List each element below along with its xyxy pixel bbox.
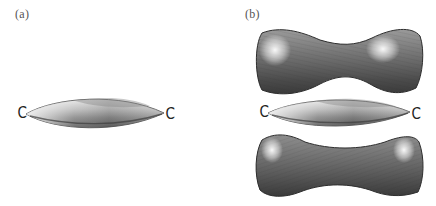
- panel-b-muscle: [268, 99, 410, 126]
- panel-a-right-marker: C: [166, 107, 175, 122]
- figure-illustration: [0, 0, 436, 206]
- panel-b-right-marker: C: [412, 107, 421, 122]
- panel-b-lower-bone: [256, 135, 423, 196]
- panel-b-upper-bone: [256, 29, 422, 93]
- panel-a-muscle: [26, 98, 164, 128]
- panel-a-left-marker: C: [18, 106, 27, 121]
- panel-b-left-marker: C: [260, 105, 269, 120]
